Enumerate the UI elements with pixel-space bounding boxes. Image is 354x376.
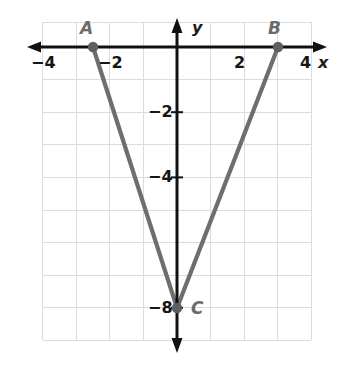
point-b-marker [273, 42, 283, 52]
point-c-marker [172, 303, 182, 313]
coordinate-plane-figure: y x −4 −2 2 4 −2 −4 −8 A B C [0, 0, 354, 376]
x-tick-label-2: 2 [234, 55, 245, 71]
point-label-a: A [80, 20, 93, 37]
x-axis-name-label: x [318, 55, 328, 71]
x-tick-label-minus-4: −4 [31, 55, 56, 71]
x-tick-label-minus-2: −2 [98, 55, 123, 71]
y-axis-name-label: y [192, 20, 202, 36]
y-tick-label-minus-8: −8 [148, 300, 173, 316]
point-label-b: B [268, 20, 281, 37]
y-tick-label-minus-2: −2 [148, 104, 173, 120]
point-a-marker [88, 42, 98, 52]
y-tick-label-minus-4: −4 [148, 169, 173, 185]
point-label-c: C [191, 300, 203, 317]
x-tick-label-4: 4 [300, 55, 311, 71]
